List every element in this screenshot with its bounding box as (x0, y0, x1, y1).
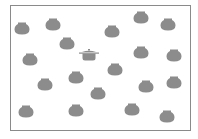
jar-icon[interactable] (90, 87, 106, 100)
jar-icon[interactable] (166, 76, 182, 89)
jar-icon[interactable] (68, 104, 84, 117)
jar-icon[interactable] (37, 78, 53, 91)
jar-icon[interactable] (18, 105, 34, 118)
jar-icon[interactable] (59, 37, 75, 50)
jar-icon[interactable] (104, 25, 120, 38)
jar-icon[interactable] (160, 18, 176, 31)
jar-icon[interactable] (14, 22, 30, 35)
jar-icon[interactable] (124, 103, 140, 116)
lidded-pot-icon[interactable] (79, 49, 99, 61)
jar-icon[interactable] (68, 71, 84, 84)
jar-icon[interactable] (45, 18, 61, 31)
jar-icon[interactable] (138, 80, 154, 93)
jar-icon[interactable] (107, 63, 123, 76)
jar-icon[interactable] (166, 49, 182, 62)
jar-icon[interactable] (159, 110, 175, 123)
jar-icon[interactable] (22, 53, 38, 66)
jar-icon[interactable] (133, 46, 149, 59)
jar-icon[interactable] (133, 11, 149, 24)
